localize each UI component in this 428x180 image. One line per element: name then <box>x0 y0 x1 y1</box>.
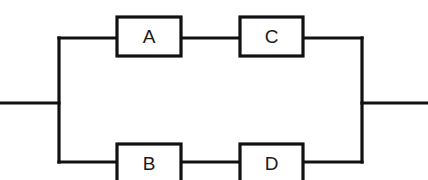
block-d-label: D <box>265 153 279 174</box>
block-a-label: A <box>143 26 156 47</box>
block-c[interactable]: C <box>240 17 303 56</box>
block-b-label: B <box>143 153 156 174</box>
block-a[interactable]: A <box>117 17 181 56</box>
block-d[interactable]: D <box>240 144 303 180</box>
block-diagram: A C B D <box>0 0 428 180</box>
block-b[interactable]: B <box>117 144 181 180</box>
block-c-label: C <box>265 26 279 47</box>
block-diagram-canvas: A C B D <box>0 0 428 180</box>
